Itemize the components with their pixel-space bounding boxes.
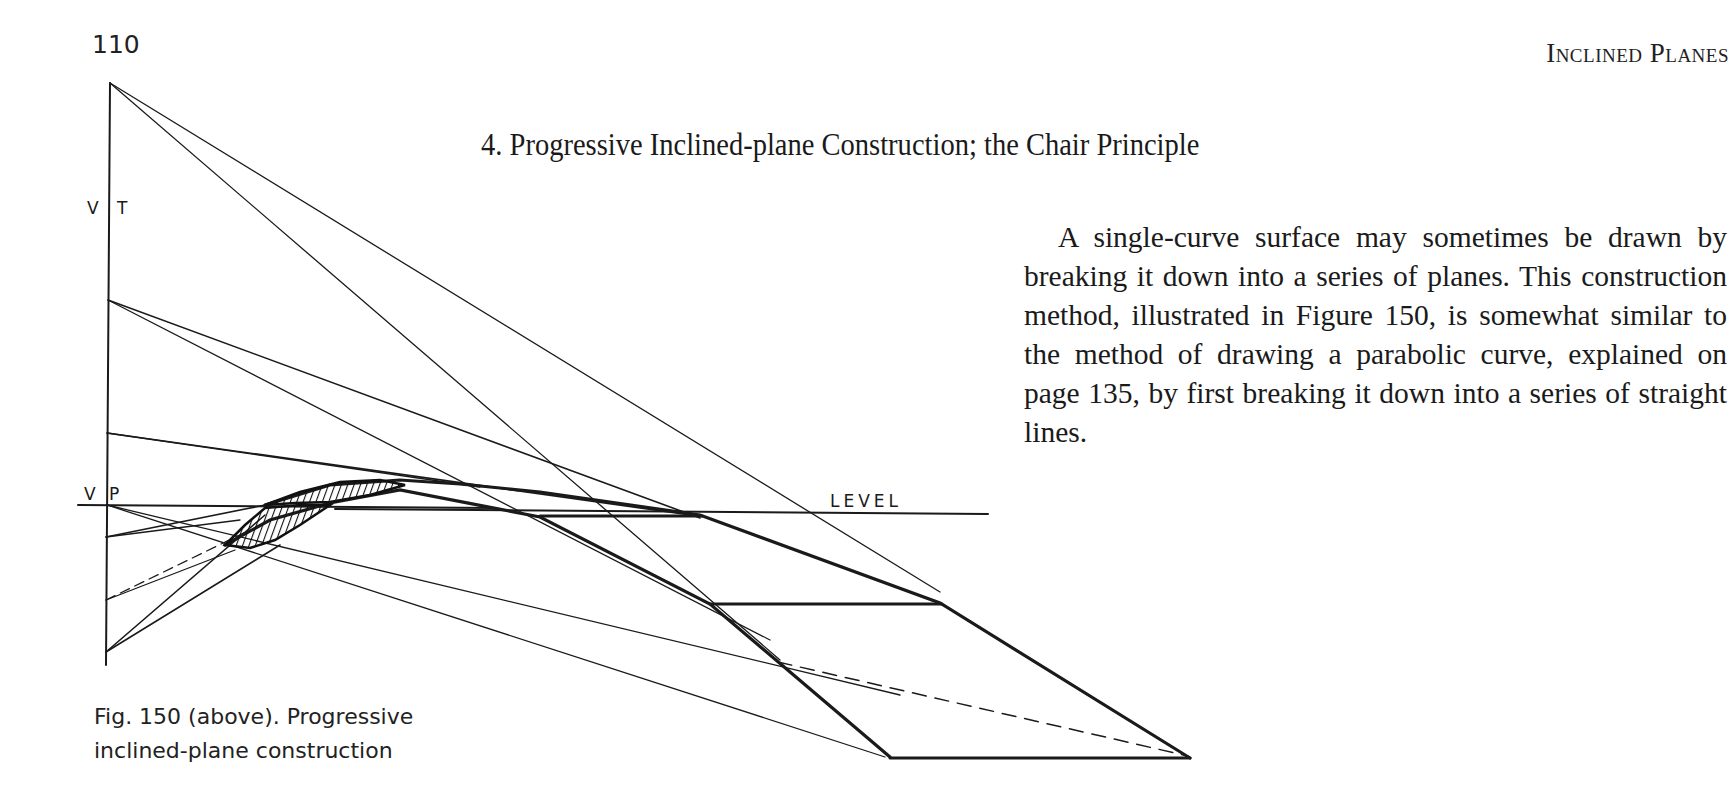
caption-line-1: Fig. 150 (above). Progressive [94, 700, 494, 734]
label-level: LEVEL [830, 491, 902, 511]
caption-line-2: inclined-plane construction [94, 734, 494, 768]
label-vp-v: V [84, 484, 96, 504]
vertical-trace-line [106, 83, 110, 665]
label-vp-p: P [109, 484, 119, 504]
figure-150-diagram: V T V P LEVEL [0, 0, 1731, 810]
hatched-section-1 [225, 505, 330, 548]
figure-caption: Fig. 150 (above). Progressive inclined-p… [94, 700, 494, 768]
label-vt-t: T [116, 198, 128, 218]
label-vt-v: V [87, 198, 99, 218]
